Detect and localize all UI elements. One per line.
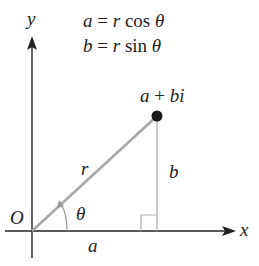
equation-b: b = r sin θ	[83, 36, 161, 55]
y-axis-label: y	[27, 9, 35, 28]
x-axis-label: x	[240, 220, 248, 239]
angle-label: θ	[76, 204, 85, 223]
angle-arc	[61, 204, 67, 231]
complex-point	[152, 111, 163, 122]
hypotenuse-r	[32, 116, 157, 231]
equation-a: a = r cos θ	[83, 11, 164, 30]
right-angle-marker	[141, 215, 157, 231]
hypotenuse-label: r	[81, 159, 88, 178]
vertical-label: b	[169, 162, 179, 181]
origin-label: O	[10, 208, 24, 227]
point-label: a + bi	[140, 86, 185, 105]
horizontal-label: a	[88, 236, 98, 255]
